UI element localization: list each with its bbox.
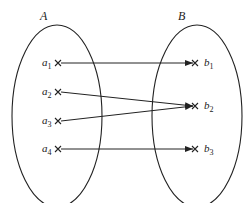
cross-mark-icon [55, 146, 61, 152]
element-a2: a2 [42, 85, 61, 100]
cross-mark-icon [55, 118, 61, 124]
set-b-ellipse [152, 25, 242, 203]
set-a-ellipse [12, 25, 102, 203]
set-b-label: B [178, 9, 186, 23]
arrow-a2-to-b2 [61, 92, 193, 106]
mapping-diagram: AB a1a2a3a4b1b2b3 [0, 0, 252, 203]
element-a3: a3 [42, 114, 61, 129]
element-b2: b2 [192, 99, 214, 114]
element-a1: a1 [42, 56, 61, 71]
arrow-a3-to-b2 [61, 106, 193, 121]
element-label: b2 [204, 99, 214, 114]
element-a4: a4 [42, 142, 61, 157]
element-label: a3 [42, 114, 52, 129]
set-a-label: A [39, 9, 48, 23]
element-label: a4 [42, 142, 52, 157]
cross-mark-icon [55, 60, 61, 66]
cross-mark-icon [55, 89, 61, 95]
arrows-layer [61, 63, 193, 149]
element-b1: b1 [192, 56, 214, 71]
element-label: b3 [204, 142, 214, 157]
element-label: a2 [42, 85, 52, 100]
element-label: b1 [204, 56, 214, 71]
element-label: a1 [42, 56, 52, 71]
element-b3: b3 [192, 142, 214, 157]
